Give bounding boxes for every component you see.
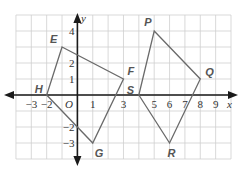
x-tick-label: 8 [198,98,204,110]
origin-label: O [65,98,73,110]
vertex-label-q: Q [205,66,214,78]
coordinate-plane: x y O −3−21356789421−2−3 EFGHPQRS [0,0,242,171]
x-tick-label: 3 [121,98,127,110]
x-axis-left-arrow-icon [4,91,14,99]
vertex-label-e: E [50,33,58,45]
x-tick-label: 6 [167,98,173,110]
y-tick-label: 1 [69,73,75,85]
x-tick-label: −3 [25,98,37,110]
polygons: EFGHPQRS [35,16,215,159]
y-axis-down-arrow-icon [73,156,81,166]
x-tick-label: 1 [90,98,96,110]
vertex-label-h: H [35,83,44,95]
x-tick-label: 5 [151,98,157,110]
vertex-label-p: P [144,16,152,28]
vertex-label-s: S [127,84,135,96]
grid [16,15,231,159]
x-tick-label: 9 [213,98,219,110]
vertex-label-g: G [95,147,104,159]
x-axis-label: x [226,98,232,110]
x-tick-label: 7 [182,98,188,110]
y-tick-label: 4 [69,25,75,37]
y-tick-label: 2 [69,57,75,69]
vertex-label-f: F [127,65,134,77]
vertex-label-r: R [168,147,176,159]
y-tick-label: −3 [63,137,75,149]
y-axis-label: y [80,12,86,24]
